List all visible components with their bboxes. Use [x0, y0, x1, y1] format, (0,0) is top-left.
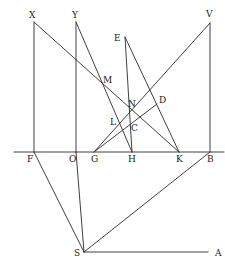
- line-EH: [125, 37, 132, 152]
- point-label-s: S: [74, 248, 80, 258]
- point-label-x: X: [29, 10, 36, 20]
- line-FS: [34, 152, 84, 252]
- point-label-d: D: [159, 95, 166, 105]
- line-OS: [76, 152, 84, 252]
- diagram-lines: [14, 22, 224, 252]
- point-label-o: O: [69, 154, 76, 164]
- point-label-a: A: [214, 248, 222, 258]
- line-GD: [94, 104, 157, 152]
- point-label-h: H: [128, 154, 136, 164]
- point-label-m: M: [103, 75, 112, 85]
- point-label-n: N: [128, 99, 136, 109]
- line-VG: [94, 23, 210, 152]
- point-label-f: F: [27, 154, 33, 164]
- point-label-v: V: [205, 9, 213, 19]
- point-label-e: E: [114, 33, 121, 43]
- point-label-g: G: [91, 154, 98, 164]
- point-label-b: B: [207, 154, 214, 164]
- point-label-k: K: [176, 154, 183, 164]
- point-label-y: Y: [71, 10, 79, 20]
- line-XK: [34, 22, 179, 152]
- point-label-l: L: [110, 117, 116, 127]
- line-EK: [125, 37, 179, 152]
- point-label-c: C: [131, 123, 138, 133]
- line-BS: [84, 152, 210, 252]
- line-YH: [76, 22, 132, 152]
- geometric-diagram: XYVEMNDLCFOGHKBSA: [0, 0, 225, 268]
